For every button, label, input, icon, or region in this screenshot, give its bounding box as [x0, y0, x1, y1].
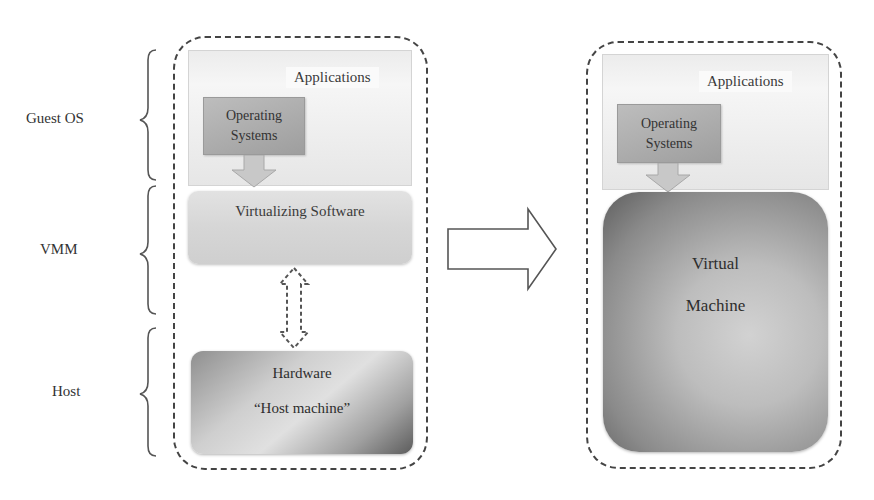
bidirectional-dashed-arrow-icon — [275, 266, 313, 350]
right-os-label-line2: Systems — [646, 134, 693, 154]
left-operating-systems-box: Operating Systems — [203, 97, 305, 155]
brace-host-icon — [140, 328, 156, 456]
brace-guest-os-icon — [140, 50, 156, 180]
virtualizing-software-label: Virtualizing Software — [235, 203, 364, 219]
host-machine-label: “Host machine” — [191, 400, 413, 417]
virtualizing-software-box: Virtualizing Software — [188, 191, 412, 264]
right-operating-systems-box: Operating Systems — [617, 104, 721, 163]
left-os-label-line2: Systems — [231, 126, 278, 146]
left-os-down-arrow-icon — [228, 155, 280, 188]
right-applications-label: Applications — [699, 71, 792, 92]
hardware-host-machine-box: Hardware “Host machine” — [191, 351, 413, 454]
right-os-label-line1: Operating — [641, 114, 697, 134]
virtual-machine-box: Virtual Machine — [603, 192, 828, 452]
layer-label-vmm: VMM — [40, 241, 78, 258]
layer-label-guest-os: Guest OS — [26, 110, 84, 127]
transition-right-arrow-icon — [446, 206, 560, 292]
brace-vmm-icon — [140, 186, 156, 314]
layer-label-host: Host — [52, 383, 80, 400]
left-applications-label: Applications — [286, 67, 379, 88]
virtual-machine-label-line1: Virtual — [603, 254, 828, 274]
left-os-label-line1: Operating — [226, 106, 282, 126]
layer-braces — [136, 46, 166, 462]
virtual-machine-label-line2: Machine — [603, 296, 828, 316]
hardware-label: Hardware — [191, 365, 413, 382]
right-os-down-arrow-icon — [642, 163, 694, 193]
